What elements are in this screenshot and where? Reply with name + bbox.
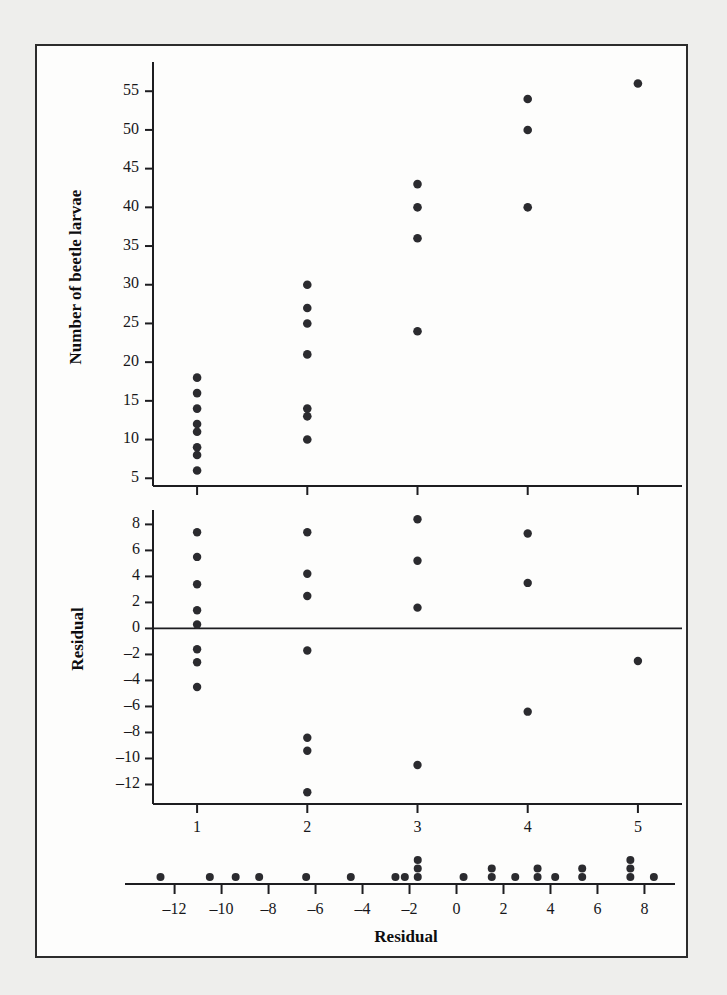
y-tick-label: 10 — [123, 429, 139, 446]
x-tick-label: 2 — [499, 900, 507, 917]
data-point — [303, 304, 312, 313]
scatter-svg: 51015202530354045505512345Number of stum… — [37, 46, 686, 496]
data-point — [413, 234, 422, 243]
y-axis-label: Residual — [68, 607, 87, 671]
data-point — [193, 404, 202, 413]
data-point — [460, 873, 468, 881]
data-point — [413, 515, 421, 523]
data-point — [193, 466, 202, 475]
data-point — [524, 529, 532, 537]
data-point — [634, 657, 642, 665]
x-tick-label: 5 — [634, 818, 642, 835]
data-point — [193, 389, 202, 398]
x-tick-label: –12 — [162, 900, 187, 917]
x-tick-label: –10 — [209, 900, 234, 917]
data-point — [303, 646, 311, 654]
data-point — [414, 865, 422, 873]
data-point — [303, 412, 312, 421]
chart-residual-vs-stumps: 86420–2–4–6–8–10–1212345Number of stumps… — [37, 496, 686, 836]
data-point — [232, 873, 240, 881]
x-tick-label: –6 — [307, 900, 324, 917]
data-point — [511, 873, 519, 881]
y-tick-label: 30 — [123, 274, 139, 291]
data-point — [413, 327, 422, 336]
data-point — [303, 746, 311, 754]
data-point — [193, 373, 202, 382]
data-point — [626, 873, 634, 881]
data-point — [488, 865, 496, 873]
data-point — [413, 603, 421, 611]
y-tick-label: 6 — [132, 540, 140, 557]
data-point — [534, 873, 542, 881]
data-point — [524, 579, 532, 587]
chart-beetle-larvae-scatter: 51015202530354045505512345Number of stum… — [37, 46, 686, 496]
y-tick-label: 45 — [123, 158, 139, 175]
data-point — [193, 658, 201, 666]
data-point — [578, 865, 586, 873]
y-tick-label: 25 — [123, 313, 139, 330]
data-point — [302, 873, 310, 881]
x-tick-label: 3 — [414, 818, 422, 835]
figure-panel: 51015202530354045505512345Number of stum… — [35, 44, 688, 958]
data-point — [303, 733, 311, 741]
x-tick-label: 4 — [524, 818, 532, 835]
x-tick-label: 8 — [640, 900, 648, 917]
data-point — [303, 280, 312, 289]
data-point — [193, 528, 201, 536]
data-point — [523, 95, 532, 104]
data-point — [347, 873, 355, 881]
data-point — [303, 435, 312, 444]
data-point — [488, 873, 496, 881]
data-point — [413, 180, 422, 189]
chart-residual-dotplot: –12–10–8–6–4–202468Residual — [37, 836, 686, 958]
y-tick-label: –8 — [123, 722, 140, 739]
data-point — [303, 404, 312, 413]
data-point — [413, 557, 421, 565]
data-point — [414, 856, 422, 864]
y-tick-label: 8 — [132, 514, 140, 531]
data-point — [303, 319, 312, 328]
data-point — [255, 873, 263, 881]
y-tick-label: 20 — [123, 352, 139, 369]
data-point — [414, 873, 422, 881]
y-axis-label: Number of beetle larvae — [66, 189, 85, 364]
data-point — [523, 126, 532, 135]
y-tick-label: 35 — [123, 236, 139, 253]
data-point — [303, 788, 311, 796]
data-point — [401, 873, 409, 881]
y-tick-label: –2 — [123, 644, 140, 661]
x-tick-label: –4 — [354, 900, 371, 917]
x-tick-label: 4 — [546, 900, 554, 917]
x-tick-label: 2 — [303, 818, 311, 835]
y-tick-label: –10 — [115, 748, 140, 765]
y-tick-label: 55 — [123, 81, 139, 98]
y-tick-label: –6 — [123, 696, 140, 713]
data-point — [193, 683, 201, 691]
x-tick-label: 1 — [193, 818, 201, 835]
y-tick-label: 2 — [132, 592, 140, 609]
y-tick-label: –12 — [115, 774, 140, 791]
data-point — [413, 761, 421, 769]
data-point — [534, 865, 542, 873]
x-tick-label: –8 — [260, 900, 277, 917]
data-point — [193, 645, 201, 653]
y-tick-label: –4 — [123, 670, 140, 687]
y-tick-label: 4 — [132, 566, 140, 583]
data-point — [193, 553, 201, 561]
data-point — [578, 873, 586, 881]
data-point — [634, 79, 643, 88]
data-point — [303, 350, 312, 359]
data-point — [193, 580, 201, 588]
data-point — [626, 856, 634, 864]
data-point — [650, 873, 658, 881]
x-axis-label: Residual — [374, 927, 438, 946]
data-point — [193, 620, 201, 628]
y-tick-label: 40 — [123, 197, 139, 214]
data-point — [303, 592, 311, 600]
data-point — [303, 528, 311, 536]
y-tick-label: 50 — [123, 120, 139, 137]
dotplot-svg: –12–10–8–6–4–202468Residual — [37, 836, 686, 958]
data-point — [523, 203, 532, 212]
data-point — [193, 451, 202, 460]
y-tick-label: 5 — [131, 468, 139, 485]
